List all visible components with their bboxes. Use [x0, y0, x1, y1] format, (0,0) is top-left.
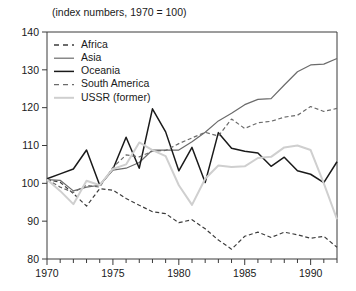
chart-figure: (index numbers, 1970 = 100) 809010011012…: [0, 0, 356, 291]
y-tick-label: 120: [21, 101, 39, 113]
y-tick-label: 110: [22, 139, 39, 151]
x-tick-label: 1970: [35, 267, 59, 279]
y-tick-group: 8090100110120130140: [21, 26, 47, 265]
legend-label-ussr-former: USSR (former): [81, 91, 150, 103]
y-tick-label: 140: [21, 26, 39, 38]
y-tick-label: 80: [27, 253, 39, 265]
chart-legend: AfricaAsiaOceaniaSouth AmericaUSSR (form…: [54, 38, 150, 103]
legend-label-africa: Africa: [81, 38, 108, 50]
series-line-africa: [47, 180, 337, 250]
y-tick-label: 130: [21, 64, 39, 76]
x-tick-label: 1980: [167, 267, 191, 279]
series-line-ussr-former: [47, 142, 337, 219]
x-tick-label: 1975: [101, 267, 125, 279]
line-chart-svg: 8090100110120130140 19701975198019851990…: [0, 0, 356, 291]
x-tick-label: 1985: [233, 267, 257, 279]
x-tick-label: 1990: [299, 267, 323, 279]
x-tick-group: 19701975198019851990: [35, 259, 337, 279]
y-tick-label: 100: [21, 177, 39, 189]
legend-label-asia: Asia: [81, 51, 102, 63]
legend-label-oceania: Oceania: [81, 64, 120, 76]
y-tick-label: 90: [27, 215, 39, 227]
legend-label-south-america: South America: [81, 77, 149, 89]
